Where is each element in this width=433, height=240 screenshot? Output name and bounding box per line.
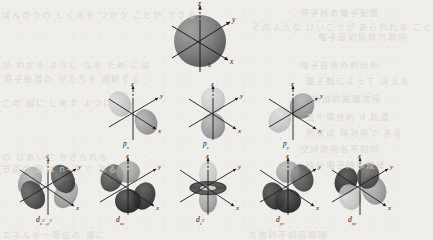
axis-label-y-dz2: y [237, 163, 242, 171]
axis-label-y-s: y [231, 15, 236, 24]
axis-label-x-dyz: x [315, 204, 320, 212]
bleed-text-10: 五个简并的 d 轨道 [306, 110, 390, 122]
axis-label-z-s: z [197, 0, 201, 8]
axis-label-x-dxz: x [155, 204, 160, 212]
axis-label-x-pz: x [237, 127, 242, 135]
axis-label-x-dz2: x [235, 204, 240, 212]
axis-label-y-pz: y [239, 92, 244, 100]
axis-label-z-dyz: z [285, 152, 289, 160]
orbital-pz: z y x [189, 80, 244, 140]
bleed-text-4: が わかる ように なる ため には [2, 58, 151, 70]
axis-label-z-pz: z [210, 80, 214, 88]
axis-label-z-py: z [290, 80, 294, 88]
axis-label-x-s: x [229, 57, 234, 66]
bleed-text-17: 与泡利不相容原理 [248, 228, 328, 240]
bleed-text-16: エネルギー準位の 順に [2, 228, 106, 240]
orbital-label-px: px [123, 139, 129, 150]
orbital-label-dxy: dxy [348, 215, 356, 226]
bleed-text-3: 电子云的形状与取向 [318, 30, 408, 42]
axis-label-z-dxz: z [125, 152, 129, 160]
axis-label-y-px: y [159, 92, 164, 100]
axis-label-x-dx2y2: x [75, 204, 80, 212]
orbital-label-dz2: dz2 [196, 215, 204, 226]
orbital-label-dxz: dxz [116, 215, 124, 226]
bleed-text-8: 轨道的能量次序 [312, 92, 382, 104]
orbital-label-pz: pz [203, 139, 209, 150]
bleed-text-0: はんのうの しくみを つかう ことが できる [2, 8, 197, 20]
bleed-text-1: 原子核の電子配置 [300, 6, 380, 18]
bleed-text-5: 原子軌道の かたちを 理解する [4, 72, 141, 84]
orbital-label-dyz: dyz [276, 215, 284, 226]
bleed-text-6: 电子在核外的分布 [300, 58, 380, 70]
axis-label-y-dxy: y [389, 163, 394, 171]
orbital-dz2: z y x [180, 152, 242, 215]
bleed-text-9: この 図に しめす ように [2, 96, 113, 108]
orbital-label-dx2y2: dx2–y2 [36, 215, 52, 226]
bleed-text-13: の ばあいに かぎられる [2, 150, 109, 162]
bleed-text-12: 空间取向各不相同 [300, 142, 380, 154]
axis-label-z-dz2: z [205, 152, 209, 160]
axis-label-y-dxz: y [157, 163, 162, 171]
axes-dz2 [180, 158, 236, 215]
bleed-text-14: 节面の 数は n−1 で ある [2, 162, 118, 174]
orbital-px: z y x [104, 80, 164, 140]
axis-label-x-px: x [157, 127, 162, 135]
orbital-label-py: py [283, 139, 289, 150]
bleed-text-11: 形状は 球対称で ある [306, 126, 403, 138]
orbital-label-s: s [208, 60, 211, 69]
axis-label-x-dxy: x [387, 204, 392, 212]
bleed-text-15: 核外电子排布规律 [306, 158, 386, 170]
bleed-text-7: 量子数によって 決まる [306, 74, 410, 86]
